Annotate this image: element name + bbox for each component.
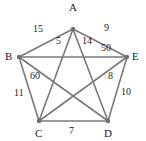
edge-weight-bc: 11 [14,88,24,98]
edge-weight-ac: 5 [56,36,61,46]
vertex-label-a: A [69,2,77,13]
edge-weight-be: 50 [101,43,111,53]
vertex-label-e: E [132,51,139,62]
vertex-label-d: D [104,128,112,139]
edge-weight-ad: 14 [82,36,92,46]
edge-weight-ab: 15 [33,24,43,34]
graph-canvas [0,0,146,141]
edge-ce [39,57,127,121]
edge-weight-cd: 7 [69,126,74,136]
weighted-graph-figure: A B C D E 15 9 11 7 10 5 14 50 60 8 [0,0,146,141]
edge-weight-bd: 60 [30,71,40,81]
node-e [125,55,129,59]
vertex-label-c: C [35,128,42,139]
node-c [37,119,41,123]
edge-bd [19,57,108,121]
edge-weight-ae: 9 [104,23,109,33]
node-d [106,119,110,123]
node-b [17,55,21,59]
node-a [71,27,75,31]
edge-weight-de: 10 [121,87,131,97]
edge-weight-ce: 8 [108,71,113,81]
vertex-label-b: B [5,51,12,62]
